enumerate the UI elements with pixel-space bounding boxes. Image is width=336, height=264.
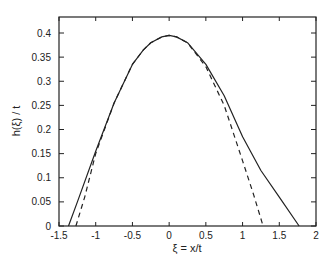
y-tick-label: 0.05	[32, 196, 52, 207]
y-tick-label: 0.4	[37, 28, 51, 39]
x-tick-label: -1	[91, 230, 100, 241]
dashed-curve	[76, 35, 263, 226]
y-tick-label: 0.25	[32, 100, 52, 111]
y-axis-label: h(ξ) / t	[10, 106, 22, 137]
y-axis-ticks: 00.050.10.150.20.250.30.350.4	[32, 28, 316, 232]
x-tick-label: 0.5	[199, 230, 213, 241]
y-tick-label: 0	[45, 221, 51, 232]
x-tick-label: -1.5	[50, 230, 68, 241]
x-tick-label: 0	[166, 230, 172, 241]
x-axis-label: ξ = x/t	[172, 242, 201, 254]
y-tick-label: 0.1	[37, 172, 51, 183]
y-tick-label: 0.15	[32, 148, 52, 159]
y-tick-label: 0.35	[32, 52, 52, 63]
y-tick-label: 0.3	[37, 76, 51, 87]
x-tick-label: 2	[313, 230, 319, 241]
x-tick-label: -0.5	[124, 230, 142, 241]
solid-curve	[69, 35, 300, 226]
x-tick-label: 1	[240, 230, 246, 241]
x-axis-ticks: -1.5-1-0.500.511.52	[50, 17, 319, 241]
y-tick-label: 0.2	[37, 124, 51, 135]
curves	[69, 35, 300, 226]
chart: -1.5-1-0.500.511.52 00.050.10.150.20.250…	[0, 0, 336, 264]
x-tick-label: 1.5	[272, 230, 286, 241]
